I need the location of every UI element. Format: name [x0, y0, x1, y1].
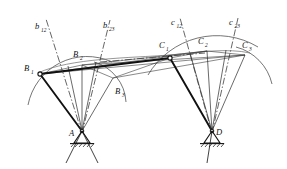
- crank-D-C1: [170, 58, 212, 131]
- label-c23: c: [229, 17, 233, 27]
- coupler-links: [40, 51, 245, 78]
- bisector-c12: [180, 18, 212, 133]
- label-c12: c: [171, 17, 175, 27]
- crank-D-aux2: [190, 53, 212, 131]
- crank-A-B3: [82, 78, 113, 131]
- bisector-lines: [46, 18, 238, 133]
- label-C2: C: [198, 36, 204, 46]
- label-b23-sub: 23: [109, 26, 115, 32]
- crank-D-C3: [212, 55, 245, 131]
- label-b12: b: [35, 21, 39, 31]
- diagram-canvas: b 12 b 23 c 12 c 23 B 1 B 2 B 3 C 1 C 2 …: [0, 0, 287, 169]
- label-B1-sub: 1: [31, 69, 34, 75]
- label-C3-sub: 3: [248, 46, 252, 52]
- crank-A-aux1: [82, 62, 96, 131]
- label-A: A: [68, 128, 75, 138]
- linkage-diagram: b 12 b 23 c 12 c 23 B 1 B 2 B 3 C 1 C 2 …: [0, 0, 287, 169]
- node-B1: [38, 72, 42, 76]
- leg-A-right: [82, 131, 98, 163]
- label-c23-sub: 23: [235, 23, 241, 29]
- crank-lines-D: [190, 50, 245, 131]
- label-D: D: [215, 127, 223, 137]
- bisector-c23: [212, 18, 238, 133]
- label-B2: B: [73, 49, 78, 59]
- bisector-b12: [46, 19, 82, 133]
- label-b12-sub: 12: [41, 27, 47, 33]
- node-C1: [168, 56, 172, 60]
- crank-D-aux1: [212, 50, 226, 131]
- leg-D-center: [207, 131, 212, 163]
- label-B3: B: [115, 86, 120, 96]
- bisector-b23: [82, 20, 110, 133]
- label-B1: B: [24, 63, 29, 73]
- label-b23: b: [103, 20, 107, 30]
- arc-c-right: [236, 47, 272, 84]
- label-B3-sub: 3: [121, 92, 125, 98]
- label-c12-sub: 12: [177, 23, 183, 29]
- label-C2-sub: 2: [205, 42, 208, 48]
- label-C1-sub: 1: [166, 46, 169, 52]
- label-C3: C: [242, 40, 248, 50]
- label-C1: C: [159, 40, 165, 50]
- label-B2-sub: 2: [80, 55, 83, 61]
